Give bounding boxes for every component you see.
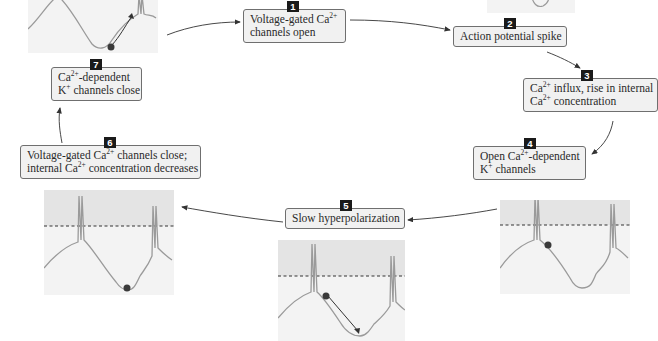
arrow-6-to-7	[59, 108, 62, 143]
step-text-line: channels open	[250, 26, 340, 39]
step-number-badge: 2	[504, 18, 516, 29]
step-number-badge: 7	[90, 59, 102, 70]
step-text-line: K+ channels close	[58, 84, 136, 97]
step-text-line: Voltage-gated Ca2+	[250, 13, 340, 26]
step-1-box: 1 Voltage-gated Ca2+ channels open	[243, 9, 346, 43]
step-number-badge: 3	[581, 70, 593, 81]
arrow-7-to-1	[167, 22, 240, 35]
step-4-box: 4 Open Ca2+-dependent K+ channels	[473, 146, 586, 180]
step-number-badge: 6	[104, 137, 116, 148]
step-text-line: K+ channels	[480, 163, 580, 176]
step-number-badge: 4	[524, 138, 536, 149]
arrow-3-to-4	[592, 121, 613, 154]
step-2-box: 2 Action potential spike	[453, 26, 567, 47]
step-5-box: 5 Slow hyperpolarization	[285, 208, 405, 229]
step-text-line: internal Ca2+ concentration decreases	[27, 162, 195, 175]
arrow-5-to-6	[182, 207, 283, 222]
step-text-line: Slow hyperpolarization	[292, 212, 399, 225]
step-number-badge: 1	[287, 1, 299, 12]
step-text-line: Action potential spike	[460, 30, 561, 43]
arrow-2-to-3	[547, 52, 580, 68]
step-text-line: Voltage-gated Ca2+ channels close;	[27, 149, 195, 162]
step-text-line: Ca2+ concentration	[530, 95, 652, 108]
step-7-box: 7 Ca2+-dependent K+ channels close	[51, 67, 142, 101]
arrow-1-to-2	[350, 20, 450, 30]
step-text-line: Open Ca2+-dependent	[480, 150, 580, 163]
step-3-box: 3 Ca2+ influx, rise in internal Ca2+ con…	[523, 78, 658, 112]
step-6-box: 6 Voltage-gated Ca2+ channels close; int…	[20, 145, 201, 179]
step-number-badge: 5	[340, 200, 352, 211]
arrow-4-to-5	[408, 209, 497, 220]
